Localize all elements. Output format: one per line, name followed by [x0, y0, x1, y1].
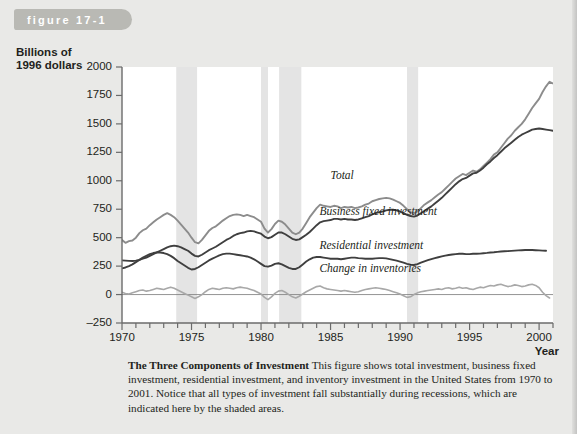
y-tick-label: 1500 [66, 117, 112, 129]
series-annotation-label: Total [331, 169, 354, 181]
x-tick-label: 2000 [517, 331, 561, 343]
y-tick-label: –250 [66, 316, 112, 328]
y-tick-label: 250 [66, 259, 112, 271]
x-tick-label: 1970 [100, 331, 144, 343]
y-tick-label: 500 [66, 231, 112, 243]
page-edge-shadow [572, 0, 577, 434]
series-annotation-label: Business fixed investment [319, 205, 437, 217]
x-tick-label: 1995 [448, 331, 492, 343]
y-tick-label: 0 [66, 288, 112, 300]
y-tick-label: 1000 [66, 174, 112, 186]
y-tick-label: 2000 [66, 60, 112, 72]
series-annotation-label: Change in inventories [319, 262, 421, 274]
caption-title: The Three Components of Investment [128, 359, 309, 371]
x-axis-title: Year [535, 345, 559, 357]
y-tick-label: 1250 [66, 145, 112, 157]
x-tick-label: 1980 [239, 331, 283, 343]
y-tick-label: 1750 [66, 88, 112, 100]
x-tick-label: 1985 [309, 331, 353, 343]
series-annotation-label: Residential investment [319, 239, 423, 251]
figure-caption: The Three Components of Investment This … [128, 358, 560, 415]
x-tick-label: 1990 [378, 331, 422, 343]
y-tick-label: 750 [66, 202, 112, 214]
x-tick-label: 1975 [170, 331, 214, 343]
